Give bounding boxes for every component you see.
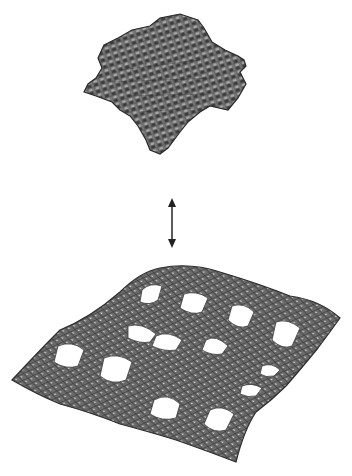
cubic-lattice-cluster — [84, 14, 246, 154]
cluster-body — [84, 14, 246, 154]
perforated-mesh-sheet — [12, 266, 340, 462]
diagram-canvas — [0, 0, 352, 476]
double-headed-arrow-icon — [168, 198, 176, 248]
diagram-figure — [0, 0, 352, 476]
